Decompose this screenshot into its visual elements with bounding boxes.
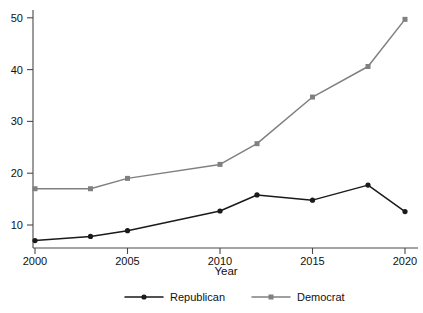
data-point-republican-2020[interactable] xyxy=(402,209,407,214)
y-tick-label: 20 xyxy=(11,167,23,179)
data-point-republican-2012[interactable] xyxy=(254,192,259,197)
y-tick-label: 50 xyxy=(11,12,23,24)
legend-marker-democrat xyxy=(269,295,274,300)
data-point-democrat-2020[interactable] xyxy=(403,17,408,22)
data-point-republican-2018[interactable] xyxy=(365,183,370,188)
data-point-republican-2015[interactable] xyxy=(310,198,315,203)
data-point-republican-2003[interactable] xyxy=(88,234,93,239)
x-tick-label: 2015 xyxy=(300,255,324,267)
data-point-democrat-2018[interactable] xyxy=(366,64,371,69)
x-tick-label: 2005 xyxy=(115,255,139,267)
y-tick-label: 10 xyxy=(11,219,23,231)
x-axis-title: Year xyxy=(214,265,237,277)
data-point-republican-2000[interactable] xyxy=(32,238,37,243)
data-point-democrat-2012[interactable] xyxy=(255,141,260,146)
data-point-republican-2010[interactable] xyxy=(217,208,222,213)
data-point-democrat-2005[interactable] xyxy=(125,176,130,181)
y-axis: 1020304050 xyxy=(11,10,33,248)
legend-marker-republican xyxy=(141,294,146,299)
line-chart: 1020304050 20002005201020152020 Year Rep… xyxy=(0,0,423,313)
x-tick-label: 2000 xyxy=(23,255,47,267)
y-tick-label: 40 xyxy=(11,64,23,76)
legend-label-democrat[interactable]: Democrat xyxy=(297,291,345,303)
data-series-layer xyxy=(32,17,407,243)
y-tick-label: 30 xyxy=(11,115,23,127)
y-axis-ticks: 1020304050 xyxy=(11,12,33,231)
data-point-democrat-2000[interactable] xyxy=(33,186,38,191)
data-point-democrat-2003[interactable] xyxy=(88,186,93,191)
data-point-republican-2005[interactable] xyxy=(125,228,130,233)
legend-label-republican[interactable]: Republican xyxy=(170,291,225,303)
x-tick-label: 2020 xyxy=(393,255,417,267)
data-point-democrat-2015[interactable] xyxy=(310,95,315,100)
data-point-democrat-2010[interactable] xyxy=(218,162,223,167)
chart-canvas: 1020304050 20002005201020152020 Year Rep… xyxy=(0,0,423,313)
chart-legend: RepublicanDemocrat xyxy=(125,291,345,303)
